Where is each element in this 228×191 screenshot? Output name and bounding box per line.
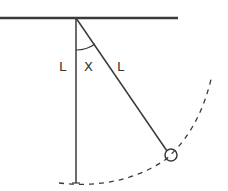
- vertical-length-label: L: [59, 59, 67, 74]
- pendulum-string: [76, 18, 167, 151]
- angle-arc: [76, 44, 95, 50]
- swing-path-dashed-arc: [59, 75, 212, 184]
- pendulum-diagram: L X L: [0, 0, 228, 191]
- angle-label: X: [84, 59, 93, 74]
- pendulum-length-label: L: [117, 59, 125, 74]
